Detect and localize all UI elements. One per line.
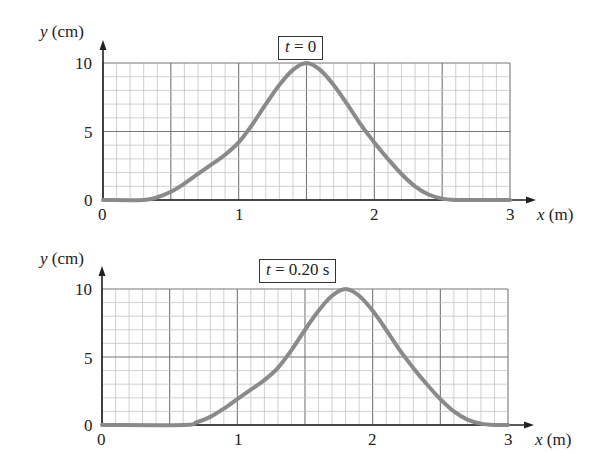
y-axis-label: y (cm)	[40, 250, 84, 267]
y-axis-unit: (cm)	[48, 249, 84, 268]
chart-plot-area	[0, 0, 616, 453]
x-axis-unit: (m)	[543, 430, 572, 449]
y-tick-10: 10	[75, 281, 92, 298]
chart-title-box: t = 0.20 s	[259, 259, 336, 283]
y-tick-5: 5	[84, 350, 93, 367]
y-axis-var: y	[40, 249, 48, 268]
x-tick-2: 2	[368, 431, 377, 448]
x-tick-1: 1	[234, 431, 243, 448]
y-tick-0: 0	[84, 417, 93, 434]
chart-panel-t020: y (cm) t = 0.20 s 10 5 0 0 1 2 3 x (m)	[0, 0, 616, 453]
x-axis-label: x (m)	[535, 431, 571, 448]
axes	[99, 266, 535, 429]
x-axis-var: x	[535, 430, 543, 449]
title-rest: = 0.20 s	[271, 260, 330, 279]
x-tick-3: 3	[504, 431, 513, 448]
x-tick-0: 0	[97, 431, 106, 448]
